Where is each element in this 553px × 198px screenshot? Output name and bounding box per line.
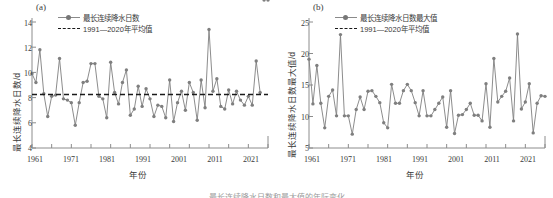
x-tick-b-1971: 1971 xyxy=(333,155,363,164)
x-tick-b-2021: 2021 xyxy=(513,155,543,164)
x-tick-a-1981: 1981 xyxy=(92,155,122,164)
x-tick-a-2001: 2001 xyxy=(164,155,194,164)
y-tick-a-6: 6 xyxy=(12,119,32,128)
y-tick-b-10: 10 xyxy=(289,113,309,122)
legend-a: 最长连续降水日数 1991—2020年平均值 xyxy=(58,12,152,34)
x-axis-label-a: 年份 xyxy=(0,168,276,180)
figure-caption: 最长连续降水日数和最大值的年际变化 xyxy=(0,191,553,198)
x-tick-a-2021: 2021 xyxy=(236,155,266,164)
y-tick-a-14: 14 xyxy=(12,19,32,28)
x-tick-b-1961: 1961 xyxy=(297,155,327,164)
figure-container: (a) 最长连续降水日数/d 14 12 10 8 6 4 1961 1971 … xyxy=(0,0,553,198)
legend-label-mean-a: 1991—2020年平均值 xyxy=(83,23,152,34)
legend-item-series-b: 最长连续降水日数最大值 xyxy=(335,12,437,23)
legend-swatch-dashed-icon xyxy=(58,24,80,33)
y-axis-label-b: 最长连续降水日数最大值/d xyxy=(285,52,297,158)
x-tick-b-2001: 2001 xyxy=(441,155,471,164)
legend-label-series-a: 最长连续降水日数 xyxy=(83,12,139,23)
y-tick-b-5: 5 xyxy=(289,144,309,153)
legend-label-mean-b: 1991—2020年平均值 xyxy=(360,23,429,34)
x-axis-label-b: 年份 xyxy=(277,168,553,180)
y-tick-b-25: 25 xyxy=(289,19,309,28)
chart-panel-b: (b) 最长连续降水日数最大值/d 25 20 15 10 5 1961 197… xyxy=(277,0,553,198)
y-tick-b-15: 15 xyxy=(289,81,309,90)
panel-label-b: (b) xyxy=(313,2,324,12)
y-tick-a-12: 12 xyxy=(12,44,32,53)
x-tick-a-2011: 2011 xyxy=(200,155,230,164)
y-tick-a-4: 4 xyxy=(12,144,32,153)
legend-item-mean-b: 1991—2020年平均值 xyxy=(335,23,437,34)
chart-panel-a: (a) 最长连续降水日数/d 14 12 10 8 6 4 1961 1971 … xyxy=(0,0,276,198)
x-tick-a-1991: 1991 xyxy=(128,155,158,164)
legend-item-mean-a: 1991—2020年平均值 xyxy=(58,23,152,34)
legend-label-series-b: 最长连续降水日数最大值 xyxy=(360,12,437,23)
y-axis-label-a: 最长连续降水日数/d xyxy=(10,73,22,152)
legend-item-series-a: 最长连续降水日数 xyxy=(58,12,152,23)
panel-label-a: (a) xyxy=(36,2,46,12)
legend-swatch-line-marker-icon xyxy=(58,13,80,22)
x-tick-a-1961: 1961 xyxy=(20,155,50,164)
legend-swatch-dashed-icon xyxy=(335,24,357,33)
y-tick-a-10: 10 xyxy=(12,69,32,78)
x-tick-b-1991: 1991 xyxy=(405,155,435,164)
y-tick-a-8: 8 xyxy=(12,94,32,103)
x-tick-b-1981: 1981 xyxy=(369,155,399,164)
x-tick-a-1971: 1971 xyxy=(56,155,86,164)
y-tick-b-20: 20 xyxy=(289,50,309,59)
legend-b: 最长连续降水日数最大值 1991—2020年平均值 xyxy=(335,12,437,34)
legend-swatch-line-marker-icon xyxy=(335,13,357,22)
x-tick-b-2011: 2011 xyxy=(477,155,507,164)
